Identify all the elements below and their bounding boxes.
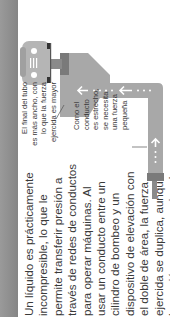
caption-line: pequeña [120,86,130,140]
pump-rod [152,181,157,199]
caption-line: El final del tubo [20,82,30,148]
rotated-page: Un líquido es prácticamente incompresibl… [0,0,170,317]
pump-piston [147,173,164,181]
caption-narrow-pipe: Como el conducto es estrecho, se necesit… [72,86,130,140]
caption-line: una fuerza [110,86,120,140]
caption-wide-end: El final del tubo es más ancho, con lo q… [20,82,58,148]
caption-line: lo que la fuerza [39,82,49,148]
caption-line: se necesita [101,86,111,140]
caption-line: es más ancho, con [30,82,40,148]
caption-line: ejercida es mayor [49,82,59,148]
hydraulic-diagram [0,0,170,317]
caption-line: es estrecho, [91,86,101,140]
caption-line: conducto [82,86,92,140]
car-icon [20,41,51,85]
caption-line: Como el [72,86,82,140]
